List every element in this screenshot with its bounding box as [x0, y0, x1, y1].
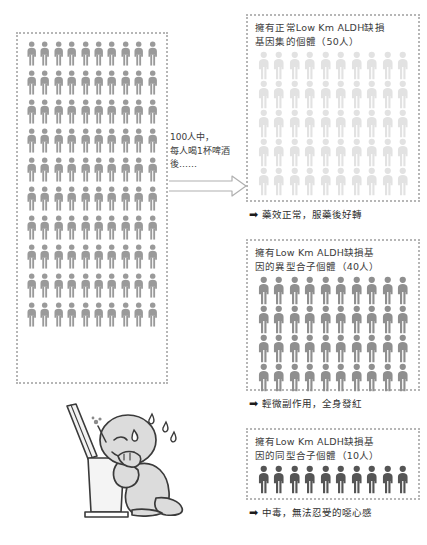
person-icon — [333, 167, 349, 196]
person-icon — [364, 305, 380, 334]
person-icon — [395, 109, 411, 138]
person-icon — [52, 155, 65, 184]
person-icon — [349, 51, 365, 80]
person-icon — [364, 138, 380, 167]
person-icon — [146, 155, 159, 184]
person-icon — [395, 51, 411, 80]
person-icon — [333, 363, 349, 392]
person-icon — [287, 80, 303, 109]
person-icon — [25, 271, 38, 300]
person-icon — [65, 97, 78, 126]
person-icon — [146, 97, 159, 126]
person-icon — [333, 334, 349, 363]
person-icon — [349, 363, 365, 392]
person-icon — [38, 126, 51, 155]
outcome-heterozygote-text: 輕微副作用，全身發紅 — [262, 397, 362, 410]
person-icon — [146, 242, 159, 271]
person-icon — [146, 184, 159, 213]
panel-heterozygote-label: 擁有Low Km ALDH缺損基 因的異型合子個體（40人） — [248, 241, 418, 276]
person-icon — [287, 138, 303, 167]
person-icon — [395, 80, 411, 109]
person-icon — [318, 276, 334, 305]
person-icon — [318, 334, 334, 363]
person-icon — [287, 363, 303, 392]
person-icon — [132, 242, 145, 271]
outcome-normal-text: 藥效正常，服藥後好轉 — [262, 208, 362, 221]
person-icon — [302, 334, 318, 363]
person-icon — [92, 97, 105, 126]
person-icon — [146, 39, 159, 68]
person-icon — [79, 213, 92, 242]
person-icon — [146, 213, 159, 242]
person-icon — [79, 155, 92, 184]
person-icon — [256, 305, 272, 334]
person-icon — [333, 138, 349, 167]
panel-homozygote-grid — [248, 465, 418, 494]
person-icon — [52, 300, 65, 329]
person-icon — [92, 271, 105, 300]
person-icon — [105, 68, 118, 97]
person-icon — [333, 80, 349, 109]
person-icon — [105, 300, 118, 329]
person-icon — [271, 363, 287, 392]
person-icon — [380, 167, 396, 196]
person-icon — [92, 242, 105, 271]
person-icon — [395, 305, 411, 334]
person-icon — [65, 184, 78, 213]
person-icon — [318, 167, 334, 196]
person-icon — [364, 465, 380, 494]
person-icon — [38, 155, 51, 184]
person-icon — [364, 167, 380, 196]
person-icon — [25, 39, 38, 68]
person-icon — [318, 138, 334, 167]
person-icon — [333, 465, 349, 494]
person-icon — [318, 80, 334, 109]
person-icon — [52, 184, 65, 213]
person-icon — [287, 465, 303, 494]
person-icon — [271, 167, 287, 196]
person-icon — [65, 271, 78, 300]
person-icon — [287, 276, 303, 305]
person-icon — [271, 80, 287, 109]
outcome-homozygote-text: 中毒，無法忍受的噁心感 — [262, 506, 372, 519]
person-icon — [349, 276, 365, 305]
person-icon — [38, 68, 51, 97]
person-icon — [364, 276, 380, 305]
person-icon — [132, 126, 145, 155]
person-icon — [52, 242, 65, 271]
person-icon — [395, 465, 411, 494]
person-icon — [25, 126, 38, 155]
person-icon — [38, 39, 51, 68]
person-icon — [25, 68, 38, 97]
person-icon — [349, 305, 365, 334]
person-icon — [271, 109, 287, 138]
person-icon — [364, 109, 380, 138]
person-icon — [92, 126, 105, 155]
person-icon — [380, 109, 396, 138]
person-icon — [287, 334, 303, 363]
panel-homozygote-label: 擁有Low Km ALDH缺損基 因的同型合子個體（10人） — [248, 430, 418, 465]
person-icon — [333, 51, 349, 80]
person-icon — [395, 363, 411, 392]
person-icon — [349, 138, 365, 167]
person-icon — [119, 39, 132, 68]
person-icon — [302, 138, 318, 167]
person-icon — [92, 184, 105, 213]
person-icon — [79, 184, 92, 213]
person-icon — [380, 138, 396, 167]
total-population-panel — [16, 32, 168, 384]
person-icon — [25, 300, 38, 329]
person-icon — [302, 363, 318, 392]
person-icon — [105, 242, 118, 271]
person-icon — [38, 184, 51, 213]
person-icon — [302, 51, 318, 80]
person-icon — [79, 68, 92, 97]
panel-normal-grid — [248, 51, 418, 196]
person-icon — [52, 271, 65, 300]
person-icon — [52, 126, 65, 155]
person-icon — [380, 305, 396, 334]
person-icon — [65, 68, 78, 97]
person-icon — [318, 109, 334, 138]
person-icon — [132, 184, 145, 213]
person-icon — [52, 68, 65, 97]
